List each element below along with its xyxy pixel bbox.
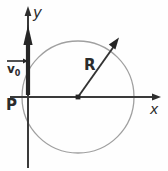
radius-label: R <box>84 56 96 74</box>
y-axis-arrowhead <box>25 6 32 16</box>
point-p-label: P <box>6 96 17 114</box>
diagram-canvas <box>0 0 168 171</box>
velocity-vector-label: v0 <box>7 58 29 78</box>
velocity-vector-symbol: v0 <box>7 63 29 78</box>
geometry-figure: y x P R v0 <box>0 0 168 171</box>
radius-vector-arrowhead <box>109 38 119 50</box>
y-axis-label: y <box>33 4 42 22</box>
velocity-vector-base: v <box>7 62 15 76</box>
velocity-vector-subscript: 0 <box>15 69 21 78</box>
x-axis-arrowhead <box>152 93 161 100</box>
x-axis-label: x <box>150 101 158 117</box>
velocity-vector-arrowhead <box>23 25 32 45</box>
circle-center-dot <box>76 95 81 100</box>
